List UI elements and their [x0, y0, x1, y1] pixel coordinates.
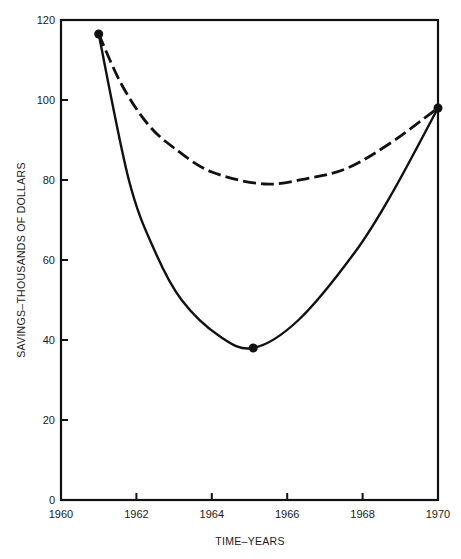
x-axis-ticks: 196019621964196619681970 [49, 493, 450, 520]
x-tick-label: 1966 [275, 508, 299, 520]
x-tick-label: 1960 [49, 508, 73, 520]
line-chart: 020406080100120 196019621964196619681970… [0, 0, 461, 559]
dashed-curve [99, 34, 438, 184]
y-tick-label: 120 [37, 14, 55, 26]
y-axis-ticks: 020406080100120 [37, 14, 68, 506]
y-tick-label: 100 [37, 94, 55, 106]
solid-curve [99, 34, 438, 349]
y-tick-label: 0 [49, 494, 55, 506]
data-point-marker [249, 344, 258, 353]
x-tick-label: 1962 [124, 508, 148, 520]
data-series [94, 30, 442, 353]
y-tick-label: 40 [43, 334, 55, 346]
y-tick-label: 60 [43, 254, 55, 266]
plot-border [61, 20, 438, 500]
x-tick-label: 1968 [350, 508, 374, 520]
y-axis-label: SAVINGS–THOUSANDS OF DOLLARS [15, 162, 27, 358]
x-tick-label: 1964 [200, 508, 224, 520]
x-axis-label: TIME–YEARS [215, 535, 285, 547]
y-tick-label: 20 [43, 414, 55, 426]
plot-frame [61, 20, 438, 500]
x-tick-label: 1970 [426, 508, 450, 520]
y-tick-label: 80 [43, 174, 55, 186]
